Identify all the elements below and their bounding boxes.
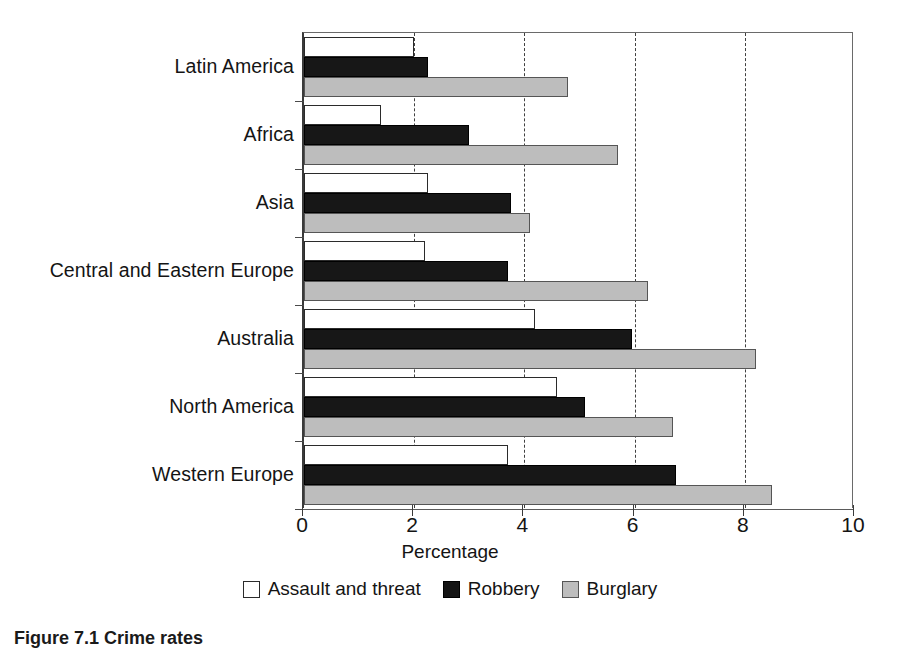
bar	[304, 377, 557, 397]
x-axis-title: Percentage	[0, 541, 900, 563]
bar	[304, 145, 618, 165]
y-axis-tick	[295, 373, 304, 374]
bar-groups	[304, 33, 852, 508]
x-axis-tick-label: 10	[841, 513, 864, 537]
bar	[304, 125, 469, 145]
bar	[304, 37, 414, 57]
legend-label: Burglary	[587, 578, 658, 600]
legend-item: Assault and threat	[243, 578, 421, 600]
y-axis-tick	[295, 305, 304, 306]
bar-group	[304, 169, 852, 237]
bar	[304, 465, 676, 485]
y-axis-label: Western Europe	[152, 463, 294, 486]
x-axis	[302, 509, 853, 510]
bar-group	[304, 305, 852, 373]
bar-group	[304, 441, 852, 509]
legend-item: Robbery	[443, 578, 540, 600]
bar	[304, 173, 428, 193]
y-axis-label: North America	[169, 395, 294, 418]
bar	[304, 485, 772, 505]
y-axis-label: Central and Eastern Europe	[50, 259, 294, 282]
plot-area	[302, 32, 853, 508]
y-axis-tick	[295, 169, 304, 170]
bar	[304, 241, 425, 261]
bar	[304, 309, 535, 329]
bar-group	[304, 33, 852, 101]
bar-group	[304, 237, 852, 305]
bar	[304, 281, 648, 301]
x-axis-tick-label: 2	[406, 513, 418, 537]
y-axis-labels: Latin AmericaAfricaAsiaCentral and Easte…	[0, 32, 294, 508]
y-axis-label: Africa	[244, 123, 294, 146]
bar	[304, 445, 508, 465]
bar	[304, 349, 756, 369]
legend-item: Burglary	[562, 578, 658, 600]
y-axis-tick	[295, 441, 304, 442]
legend-swatch-gray	[562, 581, 579, 598]
x-axis-tick-label: 0	[296, 513, 308, 537]
bar	[304, 105, 381, 125]
legend-label: Robbery	[468, 578, 540, 600]
y-axis-tick	[295, 237, 304, 238]
y-axis-label: Australia	[217, 327, 294, 350]
bar	[304, 417, 673, 437]
bar	[304, 397, 585, 417]
chart-legend: Assault and threatRobberyBurglary	[0, 578, 900, 600]
bar-group	[304, 373, 852, 441]
bar	[304, 261, 508, 281]
bar	[304, 329, 632, 349]
bar	[304, 77, 568, 97]
bar-group	[304, 101, 852, 169]
x-axis-tick-label: 8	[737, 513, 749, 537]
legend-swatch-white	[243, 581, 260, 598]
x-axis-tick-label: 6	[627, 513, 639, 537]
y-axis-tick	[295, 101, 304, 102]
x-axis-tick-label: 4	[517, 513, 529, 537]
bar	[304, 213, 530, 233]
bar	[304, 193, 511, 213]
figure-caption: Figure 7.1 Crime rates	[14, 628, 203, 649]
y-axis-label: Asia	[256, 191, 294, 214]
bar	[304, 57, 428, 77]
y-axis-label: Latin America	[175, 55, 294, 78]
legend-label: Assault and threat	[268, 578, 421, 600]
legend-swatch-black	[443, 581, 460, 598]
